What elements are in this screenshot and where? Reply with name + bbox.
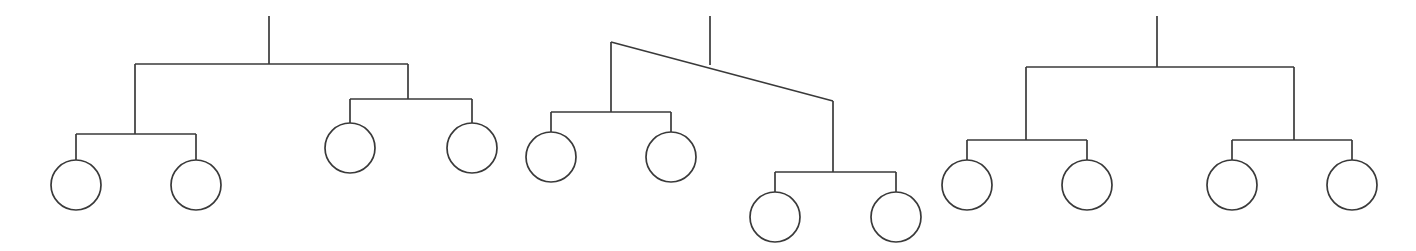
- tree-2-root-bar-slanted: [611, 42, 833, 101]
- tree-3-branch-left-leaf-node-1[interactable]: [1062, 160, 1112, 210]
- tree-2-branch-left-leaf-node-1[interactable]: [646, 132, 696, 182]
- tree-diagram-canvas: [0, 0, 1416, 251]
- tree-1-branch-right-leaf-node-1[interactable]: [447, 123, 497, 173]
- trees-group: [51, 16, 1377, 242]
- tree-3-branch-right-leaf-node-0[interactable]: [1207, 160, 1257, 210]
- tree-diagram-svg: [0, 0, 1416, 251]
- tree-3: [942, 16, 1377, 210]
- tree-2: [526, 16, 921, 242]
- tree-3-branch-right-leaf-node-1[interactable]: [1327, 160, 1377, 210]
- tree-1-branch-left-leaf-node-1[interactable]: [171, 160, 221, 210]
- tree-2-branch-right-leaf-node-0[interactable]: [750, 192, 800, 242]
- tree-1-branch-right-leaf-node-0[interactable]: [325, 123, 375, 173]
- tree-1: [51, 16, 497, 210]
- tree-1-branch-left-leaf-node-0[interactable]: [51, 160, 101, 210]
- tree-3-branch-left-leaf-node-0[interactable]: [942, 160, 992, 210]
- tree-2-branch-right-leaf-node-1[interactable]: [871, 192, 921, 242]
- tree-2-branch-left-leaf-node-0[interactable]: [526, 132, 576, 182]
